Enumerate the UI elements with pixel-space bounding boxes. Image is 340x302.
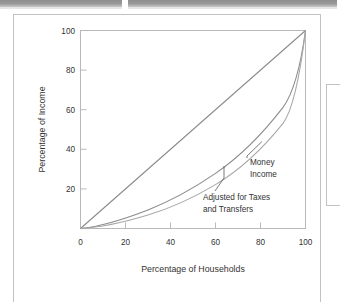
y-axis-tick-labels: 100 80 60 40 20 bbox=[61, 27, 75, 194]
x-axis-title: Percentage of Households bbox=[141, 264, 245, 274]
money-income-label-line1: Money bbox=[250, 158, 275, 167]
x-tick-label-0: 0 bbox=[78, 238, 83, 247]
adjusted-for-taxes-leader-line bbox=[215, 166, 224, 191]
y-tick-label-20: 20 bbox=[66, 185, 76, 194]
money-income-label-line2: Income bbox=[250, 170, 277, 179]
x-tick-label-100: 100 bbox=[299, 238, 313, 247]
y-tick-label-100: 100 bbox=[61, 27, 75, 36]
y-tick-label-40: 40 bbox=[66, 145, 76, 154]
chart-series-group bbox=[81, 31, 306, 229]
y-tick-label-80: 80 bbox=[66, 66, 76, 75]
x-axis-tick-labels: 0 20 40 60 80 100 bbox=[78, 238, 313, 247]
adjusted-for-taxes-label-line1: Adjusted for Taxes bbox=[203, 193, 270, 202]
series-line-of-equality bbox=[81, 31, 306, 229]
annotation-adjusted-for-taxes: Adjusted for Taxes and Transfers bbox=[203, 193, 270, 214]
y-axis-title: Percentage of Income bbox=[37, 86, 47, 172]
y-axis-ticks bbox=[81, 31, 87, 189]
x-tick-label-80: 80 bbox=[256, 238, 266, 247]
x-tick-label-60: 60 bbox=[211, 238, 221, 247]
x-tick-label-20: 20 bbox=[121, 238, 131, 247]
annotation-money-income: Money Income bbox=[250, 158, 277, 179]
adjusted-for-taxes-label-line2: and Transfers bbox=[203, 205, 253, 214]
x-tick-label-40: 40 bbox=[166, 238, 176, 247]
y-tick-label-60: 60 bbox=[66, 106, 76, 115]
